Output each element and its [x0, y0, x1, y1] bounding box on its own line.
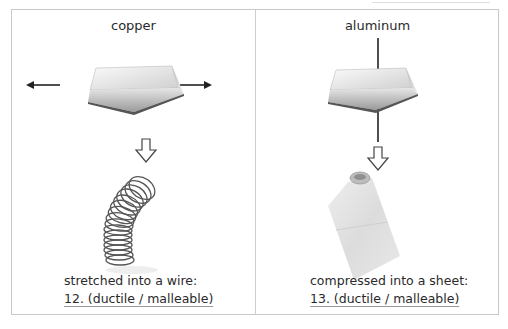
foil-sheet-image	[316, 168, 436, 288]
metal-label: copper	[12, 18, 255, 33]
metal-label: aluminum	[256, 18, 499, 33]
caption-text: compressed into a sheet:	[310, 272, 468, 290]
question-13-answer-choices[interactable]: 13. (ductile / malleable)	[310, 290, 468, 308]
panel-copper: copper	[12, 10, 255, 314]
process-caption: compressed into a sheet: 13. (ductile / …	[310, 272, 468, 308]
worksheet-table: copper	[11, 9, 499, 315]
cropped-header-underline	[372, 0, 490, 3]
copper-ingot-image	[74, 60, 194, 120]
aluminum-ingot-image	[318, 62, 428, 122]
question-12-answer-choices[interactable]: 12. (ductile / malleable)	[64, 290, 213, 308]
down-arrow-icon	[134, 138, 158, 164]
panel-aluminum: aluminum	[256, 10, 499, 314]
coiled-wire-image	[82, 170, 192, 280]
caption-text: stretched into a wire:	[64, 272, 213, 290]
process-caption: stretched into a wire: 12. (ductile / ma…	[64, 272, 213, 308]
